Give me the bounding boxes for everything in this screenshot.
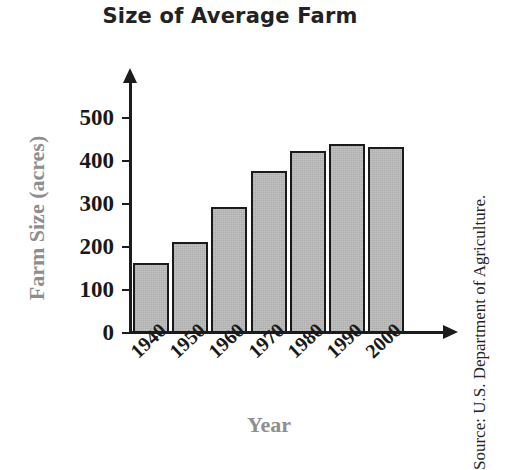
bar xyxy=(368,147,404,333)
bar xyxy=(211,207,247,333)
bar xyxy=(172,242,208,333)
bar xyxy=(251,171,287,333)
source-note: Source: U.S. Department of Agriculture. xyxy=(470,140,490,470)
bar xyxy=(329,144,365,333)
bar xyxy=(290,151,326,333)
x-axis-title: Year xyxy=(129,412,409,438)
